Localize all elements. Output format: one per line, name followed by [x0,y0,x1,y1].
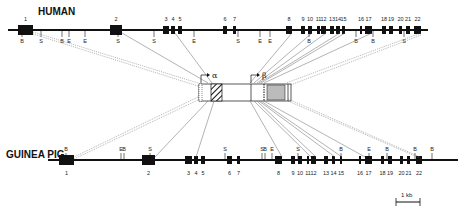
guinea-pig-restriction-site-label: E [367,146,371,152]
alpha-start-marker: α [201,71,218,83]
guinea-pig-exon-number: 1 [65,170,68,176]
human-exon-15 [342,26,345,34]
human-exons: 12345678910111213141516171819202122 [18,16,421,35]
human-exon-13 [330,26,334,34]
human-exon-17 [365,26,372,34]
human-restriction-site-label: E [67,38,71,44]
human-exon-3 [163,26,169,34]
human-restriction-site-label: B [307,38,311,44]
human-restriction-site-label: S [39,38,43,44]
guinea-pig-restriction-site-label: B [430,146,434,152]
shaded-domain [267,85,285,100]
human-exon-2 [110,25,122,35]
guinea-pig-exon-number: 22 [416,170,422,176]
human-exon-1 [18,25,33,35]
human-exon-14 [336,26,340,34]
human-restriction-site-label: S [116,38,120,44]
human-exon-16 [360,26,362,34]
human-exon-5 [178,26,182,34]
guinea-pig-label: GUINEA PIG [6,149,65,160]
human-exon-number: 4 [171,16,174,22]
guinea-pig-exon-18 [381,156,384,164]
striped-segment [199,84,202,101]
guinea-pig-exon-number: 16 [357,170,363,176]
guinea-pig-exon-12 [311,156,316,164]
guinea-pig-restriction-site-label: B [263,146,267,152]
human-restriction-site-label: S [152,38,156,44]
human-exon-number: 8 [287,16,290,22]
guinea-pig-exon-number: 19 [387,170,393,176]
human-exon-number: 5 [178,16,181,22]
guinea-pig-exon-8 [275,156,282,164]
guinea-pig-exon-number: 20 [398,170,404,176]
guinea-pig-exon-number: 18 [379,170,385,176]
human-exon-20 [399,26,402,34]
human-exon-number: 15 [340,16,346,22]
human-restriction-sites: BSBEESSESEEBBBS [20,30,406,44]
guinea-pig-exon-number: 14 [330,170,336,176]
guinea-pig-exon-number: 3 [187,170,190,176]
human-exon-number: 12 [320,16,326,22]
guinea-pig-exon-number: 9 [291,170,294,176]
guinea-pig-exons: 12345678910111213141516171819202122 [59,155,422,176]
human-exon-number: 7 [233,16,236,22]
guinea-pig-exon-number: 13 [323,170,329,176]
human-exon-number: 21 [405,16,411,22]
human-exon-9 [301,26,305,34]
guinea-pig-exon-number: 5 [201,170,204,176]
human-exon-22 [414,26,421,34]
human-exon-11 [317,26,320,34]
human-exon-number: 3 [164,16,167,22]
guinea-pig-exon-9 [291,156,295,164]
human-restriction-site-label: B [20,38,24,44]
guinea-pig-restriction-site-label: B [64,146,68,152]
human-exon-number: 18 [381,16,387,22]
human-exon-number: 22 [414,16,420,22]
human-exon-18 [382,26,386,34]
human-restriction-site-label: E [258,38,262,44]
alpha-label: α [212,71,218,80]
guinea-pig-exon-7 [237,156,240,164]
guinea-pig-exon-22 [416,156,422,164]
guinea-pig-restriction-site-label: B [385,146,389,152]
human-exon-4 [171,26,175,34]
guinea-pig-exon-number: 7 [237,170,240,176]
guinea-pig-restriction-site-label: S [148,146,152,152]
human-exon-number: 9 [301,16,304,22]
guinea-pig-exon-number: 8 [277,170,280,176]
guinea-pig-restriction-site-label: S [296,146,300,152]
guinea-pig-exon-number: 12 [310,170,316,176]
human-exon-6 [223,26,227,34]
beta-start-marker: β [251,71,267,83]
guinea-pig-restriction-site-label: B [122,146,126,152]
human-exon-number: 10 [307,16,313,22]
guinea-pig-exon-1 [59,155,74,165]
guinea-pig-exon-17 [365,156,372,164]
guinea-pig-exon-20 [400,156,403,164]
guinea-pig-exon-13 [324,156,328,164]
guinea-pig-restriction-site-label: B [339,146,343,152]
guinea-pig-exon-10 [298,156,302,164]
guinea-pig-exon-number: 4 [194,170,197,176]
guinea-pig-exon-number: 17 [365,170,371,176]
human-exon-number: 2 [114,16,117,22]
human-restriction-site-label: S [236,38,240,44]
guinea-pig-exon-6 [227,156,232,164]
human-restriction-site-label: E [268,38,272,44]
guinea-pig-exon-number: 15 [338,170,344,176]
guinea-pig-exon-11 [307,156,309,164]
guinea-pig-exon-number: 10 [297,170,303,176]
guinea-pig-restriction-site-label: S [223,146,227,152]
human-exon-number: 20 [397,16,403,22]
human-restriction-site-label: E [192,38,196,44]
human-exon-19 [389,26,393,34]
human-exon-number: 6 [223,16,226,22]
human-exon-8 [286,26,292,34]
guinea-pig-exon-4 [194,156,198,164]
human-exon-number: 16 [358,16,364,22]
human-connectors [33,32,421,86]
gene-structure-diagram: HUMAN GUINEA PIG 12345678910111213141516… [0,0,458,215]
scale-bar: 1 kb [396,192,420,206]
guinea-pig-exon-21 [407,156,410,164]
guinea-pig-exon-2 [142,155,155,165]
